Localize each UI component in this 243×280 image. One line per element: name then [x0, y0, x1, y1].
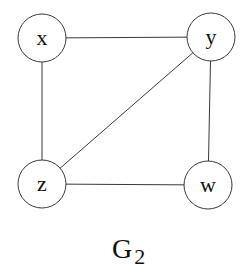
graph-title: G2: [112, 233, 145, 269]
node-label-y: y: [206, 24, 217, 49]
edge-z-w: [66, 184, 184, 185]
node-w: w: [184, 161, 232, 209]
node-label-z: z: [37, 171, 47, 196]
node-label-w: w: [200, 172, 216, 197]
node-y: y: [187, 13, 235, 61]
edge-y-w: [208, 61, 210, 161]
node-x: x: [18, 14, 66, 62]
edges-group: [42, 37, 211, 185]
graph-title-subscript: 2: [134, 244, 145, 269]
node-z: z: [18, 160, 66, 208]
graph-diagram: xyzw G2: [0, 0, 243, 280]
node-label-x: x: [37, 25, 48, 50]
edge-y-z: [60, 53, 193, 168]
edge-x-y: [66, 37, 187, 38]
graph-title-main: G: [112, 233, 132, 264]
